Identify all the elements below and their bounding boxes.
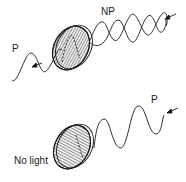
polarization-diagram: NP P P No light	[0, 0, 186, 182]
polarizer-vertical	[45, 19, 100, 77]
label-no-light: No light	[14, 156, 48, 166]
label-polarized-top: P	[12, 44, 19, 54]
incoming-arrow-bottom	[167, 108, 178, 113]
label-polarized-bottom: P	[151, 95, 158, 105]
label-unpolarized: NP	[101, 7, 115, 17]
analyzer-horizontal	[46, 118, 101, 176]
bottom-panel	[46, 106, 178, 175]
outgoing-arrow-top	[32, 63, 42, 67]
unpolarized-wave	[88, 13, 167, 46]
polarized-wave-bottom	[94, 106, 164, 148]
top-panel	[12, 13, 176, 81]
